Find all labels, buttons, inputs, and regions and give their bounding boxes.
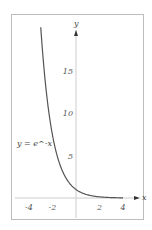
x-tick-label: 4 xyxy=(119,203,125,212)
x-axis-label: x xyxy=(142,193,147,202)
y-tick-label: 5 xyxy=(68,152,73,161)
curve-label: y = e^-x xyxy=(16,139,52,148)
y-axis-arrow-icon xyxy=(74,30,78,36)
curve-exp-neg-x xyxy=(41,27,123,198)
y-axis-label: y xyxy=(73,19,79,28)
x-axis-arrow-icon xyxy=(134,196,140,200)
x-tick-label: -2 xyxy=(49,203,57,212)
x-tick-label: -4 xyxy=(25,203,33,212)
axes: xy xyxy=(15,19,147,218)
exponential-chart: xy -4-22451015 y = e^-x xyxy=(0,0,152,230)
y-tick-label: 10 xyxy=(63,109,73,118)
y-tick-label: 15 xyxy=(63,67,73,76)
x-tick-label: 2 xyxy=(96,203,102,212)
